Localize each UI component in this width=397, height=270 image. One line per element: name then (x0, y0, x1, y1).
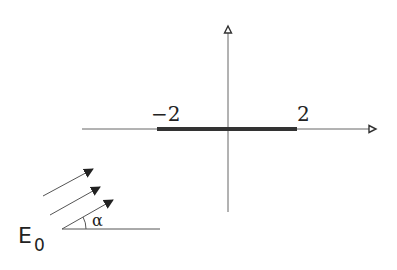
label-two: 2 (297, 102, 310, 126)
field-label-subscript: 0 (34, 235, 45, 255)
label-minus-two: −2 (151, 102, 180, 126)
diagram-canvas: −2 2 α E 0 (0, 0, 397, 270)
angle-alpha-label: α (92, 211, 103, 230)
wave-arrow-1 (43, 169, 93, 196)
field-label-e: E (18, 223, 32, 248)
angle-arc (83, 217, 86, 229)
